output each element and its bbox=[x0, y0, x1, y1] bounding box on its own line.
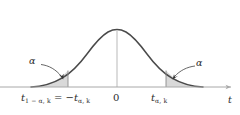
t-distribution-figure: α α t1 − α, k = −tα, k 0 tα, k t bbox=[0, 0, 240, 115]
origin-tick-label: 0 bbox=[113, 93, 119, 103]
left-crit-negated-base: −t bbox=[66, 92, 78, 103]
right-alpha-leader-line bbox=[175, 66, 196, 77]
left-crit-subscript: 1 − α, k bbox=[25, 97, 51, 104]
right-critical-value-label: tα, k bbox=[151, 93, 167, 104]
alpha-label-left: α bbox=[29, 56, 35, 66]
right-alpha-arrowhead-icon bbox=[173, 74, 178, 79]
left-alpha-leader-line bbox=[41, 65, 62, 77]
left-critical-value-label: t1 − α, k = −tα, k bbox=[21, 93, 90, 104]
left-crit-negated-subscript: α, k bbox=[78, 97, 90, 104]
t-axis-label: t bbox=[228, 95, 232, 105]
right-crit-subscript: α, k bbox=[155, 97, 167, 104]
alpha-label-right: α bbox=[196, 58, 202, 68]
